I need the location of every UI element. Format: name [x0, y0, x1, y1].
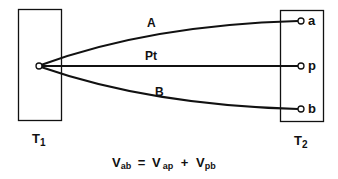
thermocouple-diagram: a p b A Pt B T1 T2 Vab = Vap + Vpb: [0, 0, 338, 179]
terminal-p-label: p: [308, 58, 316, 73]
wire-a: [41, 21, 298, 65]
wire-b-label: B: [155, 85, 164, 99]
terminal-b-icon: [298, 106, 304, 112]
wire-a-label: A: [147, 16, 156, 30]
terminal-a-label: a: [308, 13, 316, 28]
terminal-a-icon: [298, 18, 304, 24]
wire-pt-label: Pt: [145, 49, 157, 63]
wire-b: [41, 67, 298, 109]
terminal-b-label: b: [308, 101, 316, 116]
terminal-p-icon: [298, 63, 304, 69]
block-t1-label: T1: [32, 131, 46, 148]
equation: Vab = Vap + Vpb: [112, 155, 216, 172]
junction-node-icon: [36, 63, 42, 69]
block-t2-label: T2: [294, 133, 308, 150]
